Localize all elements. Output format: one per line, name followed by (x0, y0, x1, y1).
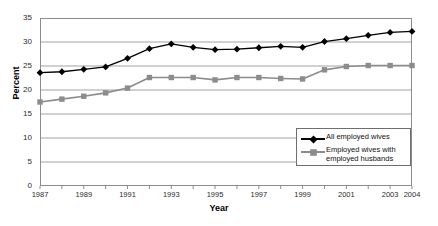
data-point-1-1993 (169, 75, 174, 80)
data-point-1-1995 (212, 77, 217, 82)
legend-label-1: All employed wives (326, 132, 390, 141)
x-tick-1991: 1991 (113, 191, 143, 199)
data-point-1-2003 (387, 63, 392, 68)
data-point-1-1988 (59, 96, 64, 101)
x-tick-1989: 1989 (69, 191, 99, 199)
x-axis-title: Year (169, 203, 269, 213)
data-point-0-2002 (365, 32, 372, 39)
data-point-0-1987 (37, 69, 44, 76)
data-point-0-1992 (146, 45, 153, 52)
x-tick-2004: 2004 (397, 191, 427, 199)
y-tick-35: 35 (2, 14, 32, 22)
data-point-0-2004 (409, 28, 416, 35)
data-point-1-1992 (147, 75, 152, 80)
y-tick-30: 30 (2, 38, 32, 46)
data-point-1-1987 (37, 99, 42, 104)
chart-container: 05101520253035 1987198919911993199519971… (0, 0, 438, 226)
data-point-0-1995 (212, 46, 219, 53)
data-point-0-2003 (387, 29, 394, 36)
data-point-1-1997 (256, 75, 261, 80)
legend: All employed wives Employed wives with e… (296, 128, 411, 166)
y-tick-10: 10 (2, 134, 32, 142)
data-point-1-1990 (103, 90, 108, 95)
data-point-1-1998 (278, 76, 283, 81)
data-point-0-1999 (299, 44, 306, 51)
data-point-0-2000 (321, 38, 328, 45)
x-tick-1987: 1987 (25, 191, 55, 199)
y-axis-title: Percent (11, 53, 21, 113)
x-axis-ticks (40, 186, 412, 189)
data-point-1-2000 (322, 67, 327, 72)
x-tick-2001: 2001 (331, 191, 361, 199)
legend-item-all-employed-wives: All employed wives (300, 132, 408, 144)
data-point-0-1991 (124, 55, 131, 62)
data-point-0-1993 (168, 41, 175, 48)
data-point-0-1997 (255, 44, 262, 51)
legend-label-2: Employed wives with employed husbands (326, 145, 396, 163)
y-tick-0: 0 (2, 182, 32, 190)
legend-item-employed-wives-with-employed-husbands: Employed wives with employed husbands (300, 145, 408, 163)
x-tick-1997: 1997 (244, 191, 274, 199)
y-tick-5: 5 (2, 158, 32, 166)
data-point-1-2001 (344, 64, 349, 69)
x-tick-1999: 1999 (288, 191, 318, 199)
data-point-1-1989 (81, 94, 86, 99)
data-point-1-1996 (234, 75, 239, 80)
legend-label-2-line2: employed husbands (326, 154, 393, 163)
legend-swatch-diamond-icon (300, 133, 326, 144)
data-point-0-1994 (190, 44, 197, 51)
legend-label-2-line1: Employed wives with (326, 145, 396, 154)
data-point-0-1990 (102, 64, 109, 71)
x-tick-1993: 1993 (156, 191, 186, 199)
data-point-0-2001 (343, 35, 350, 42)
data-point-0-1988 (58, 68, 65, 75)
data-point-1-1999 (300, 76, 305, 81)
data-point-1-1994 (190, 75, 195, 80)
data-point-0-1998 (277, 43, 284, 50)
data-point-1-2004 (409, 63, 414, 68)
data-point-0-1996 (234, 46, 241, 53)
legend-swatch-square-icon (300, 146, 326, 157)
x-tick-1995: 1995 (200, 191, 230, 199)
data-point-0-1989 (80, 66, 87, 73)
data-point-1-1991 (125, 85, 130, 90)
data-point-1-2002 (366, 63, 371, 68)
